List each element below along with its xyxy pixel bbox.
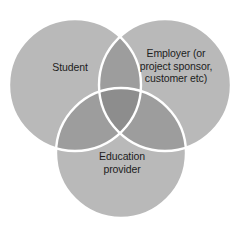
venn-diagram: Student Employer (or project sponsor, cu…	[0, 0, 241, 227]
venn-diagram-canvas	[0, 0, 241, 227]
